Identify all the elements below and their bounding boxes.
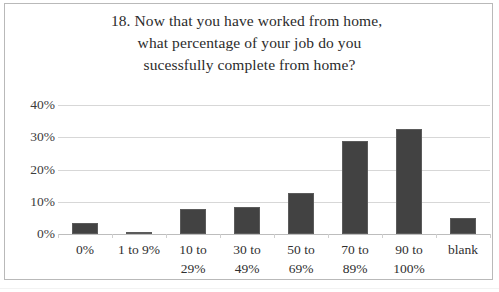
bar-slot-2 bbox=[166, 105, 220, 234]
bar-5[interactable] bbox=[342, 141, 368, 234]
x-label-5-line-1: 70 to bbox=[341, 242, 368, 257]
x-label-4-line-1: 50 to bbox=[287, 242, 314, 257]
bar-4[interactable] bbox=[288, 193, 314, 234]
y-tick-label-30: 30% bbox=[7, 130, 55, 144]
x-label-3-line-1: 30 to bbox=[233, 242, 260, 257]
bar-slot-5 bbox=[328, 105, 382, 234]
x-tick-6 bbox=[382, 234, 383, 238]
bars-layer bbox=[58, 105, 490, 234]
chart-frame: 18. Now that you have worked from home, … bbox=[4, 3, 493, 280]
x-label-0: 0% bbox=[58, 240, 112, 259]
x-label-3-line-2: 49% bbox=[220, 259, 274, 278]
bar-2[interactable] bbox=[180, 209, 206, 234]
x-tick-0 bbox=[58, 234, 59, 238]
x-label-2-line-1: 10 to bbox=[179, 242, 206, 257]
y-tick-label-40: 40% bbox=[7, 98, 55, 112]
plot-wrapper: 40% 30% 20% 10% 0% bbox=[5, 4, 494, 281]
bar-slot-1 bbox=[112, 105, 166, 234]
bar-1[interactable] bbox=[126, 232, 152, 234]
bar-0[interactable] bbox=[72, 223, 98, 234]
x-label-0-line-1: 0% bbox=[76, 242, 94, 257]
y-tick-label-10: 10% bbox=[7, 195, 55, 209]
bar-3[interactable] bbox=[234, 207, 260, 234]
x-tick-7 bbox=[436, 234, 437, 238]
bar-slot-0 bbox=[58, 105, 112, 234]
x-tick-2 bbox=[166, 234, 167, 238]
x-label-1-line-1: 1 to 9% bbox=[118, 242, 160, 257]
bar-7[interactable] bbox=[450, 218, 476, 234]
y-axis-labels: 40% 30% 20% 10% 0% bbox=[5, 105, 55, 234]
x-tick-4 bbox=[274, 234, 275, 238]
bar-slot-3 bbox=[220, 105, 274, 234]
x-label-4: 50 to 69% bbox=[274, 240, 328, 278]
x-label-2: 10 to 29% bbox=[166, 240, 220, 278]
x-label-5-line-2: 89% bbox=[328, 259, 382, 278]
scan-artifact-line bbox=[0, 288, 499, 289]
x-label-5: 70 to 89% bbox=[328, 240, 382, 278]
x-label-2-line-2: 29% bbox=[166, 259, 220, 278]
x-label-4-line-2: 69% bbox=[274, 259, 328, 278]
bar-slot-6 bbox=[382, 105, 436, 234]
x-label-7: blank bbox=[436, 240, 490, 259]
y-tick-label-0: 0% bbox=[7, 227, 55, 241]
bar-6[interactable] bbox=[396, 129, 422, 234]
chart-screenshot: 18. Now that you have worked from home, … bbox=[0, 0, 499, 292]
x-label-6: 90 to 100% bbox=[382, 240, 436, 278]
bar-slot-4 bbox=[274, 105, 328, 234]
x-label-3: 30 to 49% bbox=[220, 240, 274, 278]
x-tick-8 bbox=[490, 234, 491, 238]
y-tick-label-20: 20% bbox=[7, 163, 55, 177]
x-tick-3 bbox=[220, 234, 221, 238]
x-tick-1 bbox=[112, 234, 113, 238]
x-tick-5 bbox=[328, 234, 329, 238]
x-label-6-line-1: 90 to bbox=[395, 242, 422, 257]
bar-slot-7 bbox=[436, 105, 490, 234]
x-label-1: 1 to 9% bbox=[112, 240, 166, 259]
x-label-7-line-1: blank bbox=[448, 242, 478, 257]
x-label-6-line-2: 100% bbox=[382, 259, 436, 278]
x-axis-labels: 0% 1 to 9% 10 to 29% 30 to 49% 50 to bbox=[58, 240, 490, 282]
